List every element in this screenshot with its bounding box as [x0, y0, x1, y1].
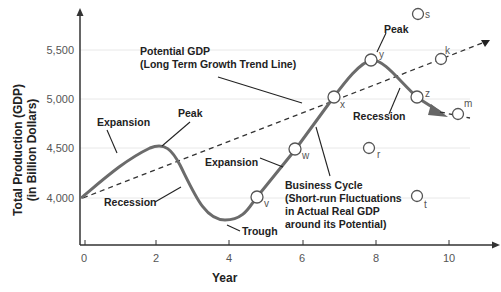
point-label-m: m — [464, 98, 472, 109]
x-axis-arrow-icon — [492, 242, 500, 249]
business-cycle-label-3: in Actual Real GDP — [285, 205, 380, 217]
recession-label-1: Recession — [104, 196, 157, 208]
point-label-x: x — [340, 99, 345, 110]
point-s — [413, 9, 424, 20]
y-tick-5000: 5,000 — [46, 93, 74, 105]
x-tick-2: 2 — [153, 252, 159, 264]
point-z — [411, 91, 423, 103]
y-axis-arrow-icon — [77, 8, 84, 16]
peak-label-2: Peak — [384, 23, 409, 35]
peak-label-1: Peak — [178, 107, 203, 119]
expansion-label-2: Expansion — [205, 156, 258, 168]
x-tick-8: 8 — [373, 252, 379, 264]
x-tick-6: 6 — [299, 252, 305, 264]
point-t — [412, 191, 423, 202]
recession-arrow-icon — [428, 104, 448, 117]
y-tick-5500: 5,500 — [46, 44, 74, 56]
business-cycle-label-1: Business Cycle — [285, 179, 363, 191]
point-y — [365, 54, 377, 66]
potential-gdp-sublabel: (Long Term Growth Trend Line) — [140, 58, 296, 70]
point-x — [328, 91, 340, 103]
point-label-y: y — [379, 49, 384, 60]
point-label-v: v — [264, 198, 269, 209]
y-tick-4000: 4,000 — [46, 192, 74, 204]
point-label-z: z — [425, 88, 430, 99]
y-tick-4500: 4,500 — [46, 142, 74, 154]
x-tick-0: 0 — [81, 252, 87, 264]
point-m — [453, 109, 464, 120]
x-axis-label: Year — [212, 271, 238, 285]
x-tick-4: 4 — [226, 252, 232, 264]
business-cycle-chart: 0 2 4 6 8 10 4,000 4,500 5,000 5,500 Yea… — [0, 0, 501, 292]
recession-label-2: Recession — [353, 110, 406, 122]
trough-label: Trough — [242, 225, 278, 237]
point-w — [289, 143, 301, 155]
y-axis-label-line1: Total Production (GDP) — [11, 84, 25, 216]
point-label-w: w — [301, 150, 310, 161]
y-tick-labels: 4,000 4,500 5,000 5,500 — [46, 44, 74, 204]
point-r — [364, 143, 375, 154]
x-tick-10: 10 — [443, 252, 455, 264]
business-cycle-label-2: (Short-run Fluctuations — [285, 192, 402, 204]
business-cycle-label-4: around its Potential) — [285, 218, 387, 230]
trend-arrow-icon — [481, 40, 490, 47]
y-axis-label: Total Production (GDP) (in Billion Dolla… — [11, 84, 39, 216]
point-label-s: s — [425, 9, 430, 20]
potential-gdp-label: Potential GDP — [140, 45, 210, 57]
y-axis-label-line2: (in Billion Dollars) — [25, 99, 39, 202]
point-v — [251, 191, 263, 203]
point-label-t: t — [424, 199, 427, 210]
expansion-label-1: Expansion — [97, 116, 150, 128]
x-tick-labels: 0 2 4 6 8 10 — [81, 252, 455, 264]
point-label-r: r — [377, 149, 381, 160]
